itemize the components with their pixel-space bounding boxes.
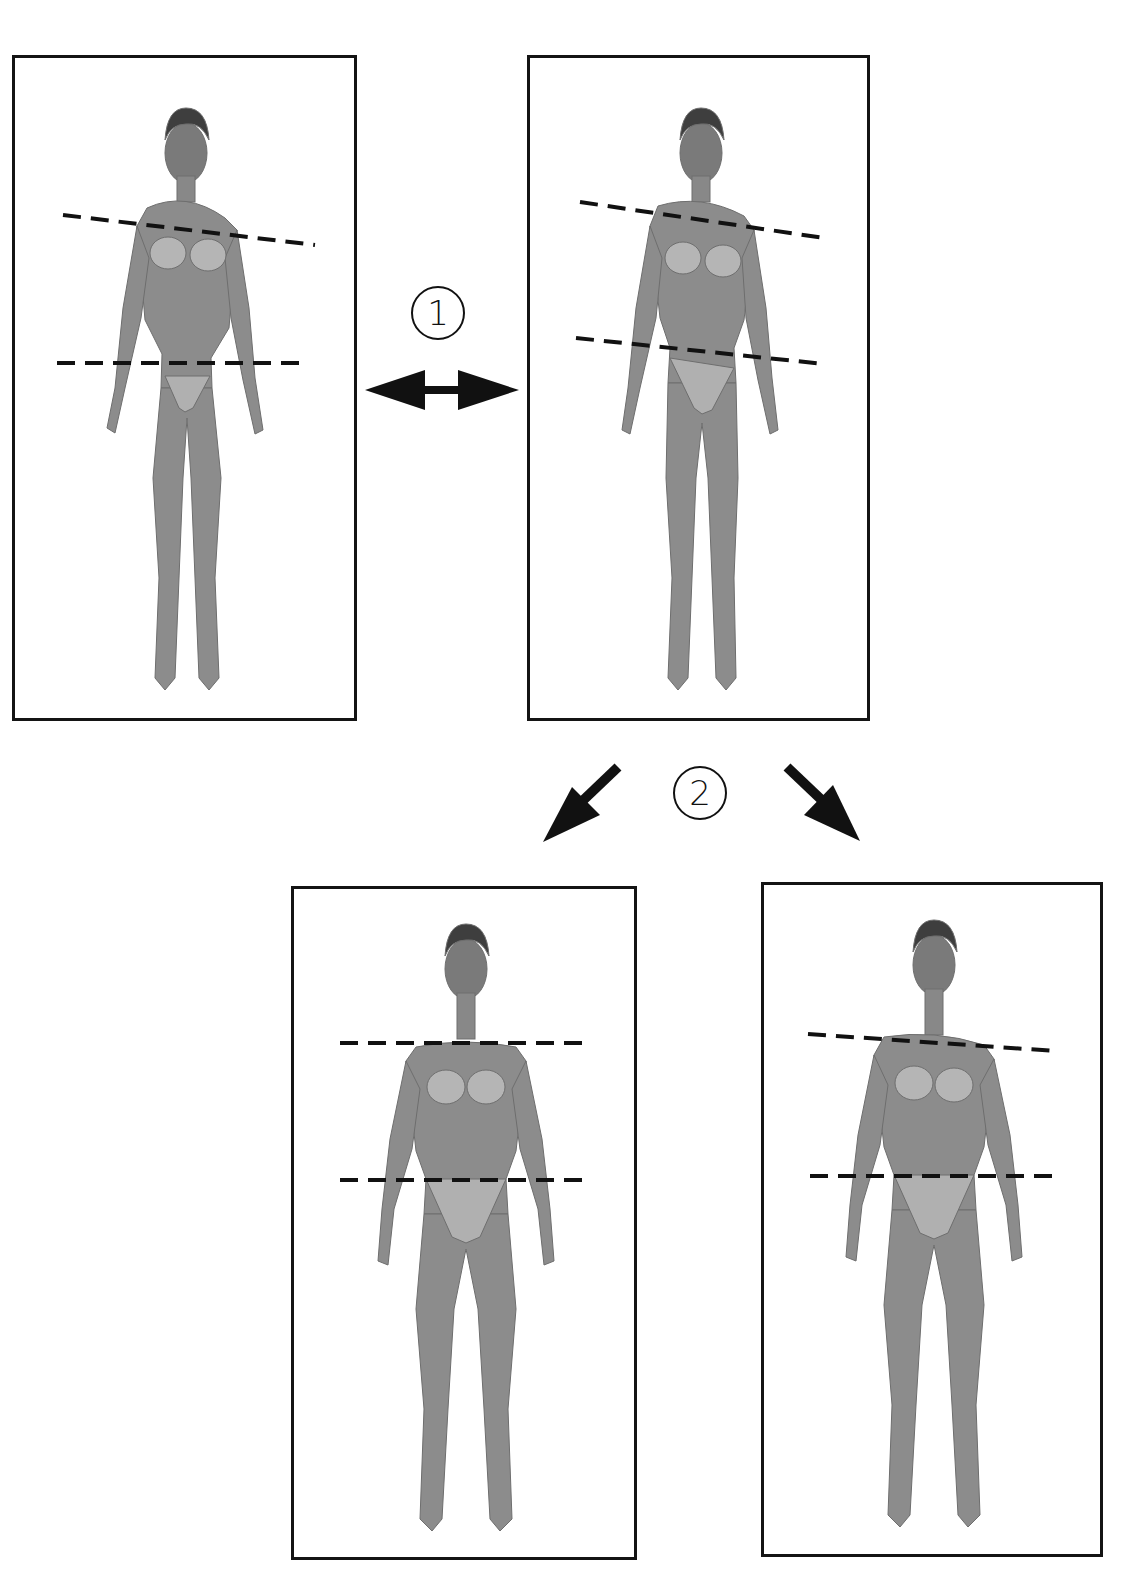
panel-4-figure-frame (761, 882, 1103, 1557)
figure-silhouette-icon (764, 885, 1100, 1554)
step-2-label: 2 (689, 773, 711, 813)
step-1-marker: 1 (411, 286, 465, 340)
double-arrow-icon (365, 370, 519, 410)
step-2-marker: 2 (673, 766, 727, 820)
arrow-down-left-icon (543, 767, 618, 842)
panel-2-figure-frame (527, 55, 870, 721)
figure-silhouette-icon (294, 889, 634, 1557)
figure-silhouette-icon (15, 58, 354, 718)
figure-silhouette-icon (530, 58, 867, 718)
step-1-label: 1 (427, 293, 449, 333)
panel-3-figure-frame (291, 886, 637, 1560)
arrow-down-right-icon (787, 767, 860, 841)
panel-1-figure-frame (12, 55, 357, 721)
